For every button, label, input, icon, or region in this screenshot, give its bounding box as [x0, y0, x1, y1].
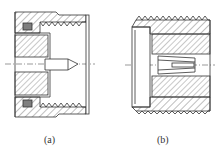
connector-diagram: [0, 0, 219, 150]
insulator-top-a: [15, 35, 48, 57]
thread-top-a: [40, 22, 86, 26]
o-ring-bottom-a: [23, 100, 32, 107]
socket-contact-b: [158, 56, 195, 74]
thread-bottom-b: [136, 111, 210, 114]
panel-a: [5, 12, 95, 117]
flange-a: [86, 15, 89, 114]
insulator-bottom-a: [15, 72, 48, 95]
panel-a-label: (a): [44, 134, 55, 145]
thread-top-b: [136, 16, 210, 20]
o-ring-top-a: [23, 23, 32, 30]
panel-b: [125, 16, 215, 114]
thread-bottom-a: [40, 103, 86, 107]
insulator-bottom-b: [152, 76, 210, 97]
pin-contact-a: [45, 59, 78, 70]
panel-b-label: (b): [157, 134, 169, 145]
insulator-top-b: [152, 34, 210, 54]
